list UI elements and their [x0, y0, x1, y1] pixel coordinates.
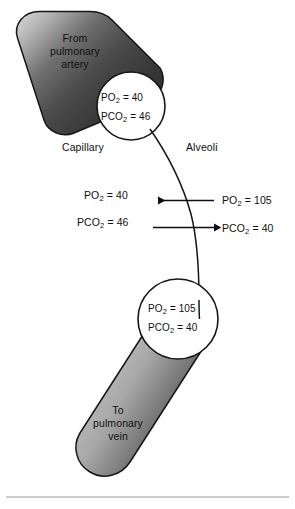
inflow-vessel-label-line-2: pulmonary — [50, 45, 100, 57]
alveolar-side-pco2-label: PCO2 = 40 — [222, 222, 274, 235]
blood-side-pco2-label: PCO2 = 46 — [77, 216, 129, 229]
gas-exchange-diagram: From pulmonary artery PO2 = 40 PCO2 = 46… — [0, 0, 295, 509]
venous-po2-value: PO2 = 40 — [101, 92, 163, 105]
blood-side-po2-label: PO2 = 40 — [84, 189, 128, 202]
alveoli-region-label: Alveoli — [186, 141, 218, 154]
inflow-vessel-label-line-3: artery — [61, 58, 88, 70]
outflow-vessel-label-line-1: To — [112, 404, 123, 416]
capillary-region-label: Capillary — [62, 141, 104, 154]
venous-bubble-values: PO2 = 40 PCO2 = 46 — [101, 92, 163, 123]
inflow-vessel-label-line-1: From — [63, 32, 88, 44]
outflow-vessel-label-line-3: vein — [108, 430, 128, 442]
outflow-vessel-label: To pulmonary vein — [80, 404, 156, 442]
arterial-bubble-values: PO2 = 105 PCO2 = 40 — [148, 303, 218, 334]
outflow-vessel-label-line-2: pulmonary — [93, 417, 143, 429]
venous-pco2-value: PCO2 = 46 — [101, 111, 163, 124]
alveolar-side-po2-label: PO2 = 105 — [222, 194, 272, 207]
arterial-po2-value: PO2 = 105 — [148, 303, 218, 316]
arterial-pco2-value: PCO2 = 40 — [148, 322, 218, 335]
alveolar-membrane-curve — [150, 129, 199, 300]
inflow-vessel-label: From pulmonary artery — [36, 32, 114, 70]
